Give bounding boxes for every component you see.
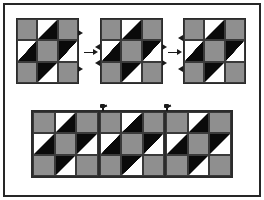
block-cell [204, 19, 224, 40]
block-cell [142, 40, 162, 61]
arrow-shaft [168, 52, 177, 54]
block-cell [58, 62, 78, 83]
block-cell [100, 133, 122, 154]
block-cell [33, 155, 55, 176]
block-cell [58, 19, 78, 40]
pin-stem [166, 107, 168, 111]
block-cell [101, 62, 121, 83]
block-cell [17, 40, 37, 61]
block-cell [121, 62, 141, 83]
block-cell [100, 112, 122, 133]
pin-tail [168, 105, 171, 108]
block-cell [209, 133, 231, 154]
seam-tab-icon [95, 44, 100, 50]
block-cell [58, 40, 78, 61]
block-cell [33, 112, 55, 133]
block-cell [121, 133, 143, 154]
block-cell [17, 19, 37, 40]
block-cell [55, 155, 77, 176]
block-cell [121, 112, 143, 133]
block-cell [121, 155, 143, 176]
seam-tab-icon [162, 60, 167, 66]
block-cell [37, 62, 57, 83]
block-cell [166, 133, 188, 154]
block-cell [100, 155, 122, 176]
block-cell [101, 40, 121, 61]
block-cell [37, 40, 57, 61]
block-cell [76, 133, 98, 154]
block-cell [17, 62, 37, 83]
block-cell [55, 112, 77, 133]
block-cell [33, 133, 55, 154]
block-cell [209, 155, 231, 176]
pin-tail [104, 105, 107, 108]
block-cell [143, 155, 165, 176]
quilt-block-3 [183, 18, 246, 84]
block-cell [166, 155, 188, 176]
block-cell [101, 19, 121, 40]
block-cell [142, 62, 162, 83]
block-cell [209, 112, 231, 133]
strip-block-1 [32, 111, 99, 177]
block-cell [142, 19, 162, 40]
block-cell [188, 112, 210, 133]
block-cell [225, 19, 245, 40]
seam-pin-icon [100, 104, 107, 110]
block-cell [166, 112, 188, 133]
figure-canvas [0, 0, 264, 200]
block-cell [225, 62, 245, 83]
seam-pin-icon [164, 104, 171, 110]
quilt-block-2 [100, 18, 163, 84]
block-cell [121, 40, 141, 61]
block-cell [204, 62, 224, 83]
strip-block-3 [165, 111, 232, 177]
block-cell [184, 40, 204, 61]
block-cell [188, 155, 210, 176]
block-cell [143, 112, 165, 133]
arrow-shaft [84, 52, 93, 54]
seam-tab-icon [162, 44, 167, 50]
block-cell [225, 40, 245, 61]
seam-tab-icon [78, 66, 83, 72]
block-cell [37, 19, 57, 40]
block-cell [55, 133, 77, 154]
quilt-block-1 [16, 18, 79, 84]
figure-root [0, 0, 264, 200]
block-cell [188, 133, 210, 154]
block-cell [76, 155, 98, 176]
seam-tab-icon [178, 66, 183, 72]
pin-stem [102, 107, 104, 111]
block-cell [184, 62, 204, 83]
block-cell [184, 19, 204, 40]
block-cell [76, 112, 98, 133]
block-cell [143, 133, 165, 154]
block-cell [204, 40, 224, 61]
seam-tab-icon [95, 60, 100, 66]
block-cell [121, 19, 141, 40]
strip-block-2 [99, 111, 166, 177]
seam-tab-icon [178, 35, 183, 41]
assembled-quilt-strip [31, 110, 233, 178]
arrow-head-icon [177, 49, 182, 55]
seam-tab-icon [78, 30, 83, 36]
